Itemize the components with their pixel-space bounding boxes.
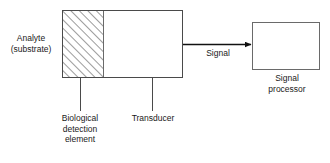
biosensor-diagram: Analyte (substrate) Signal Signal proces… (0, 0, 330, 163)
transducer-block (104, 11, 183, 78)
label-signal: Signal (190, 48, 246, 59)
biological-detection-element-block (63, 11, 104, 78)
label-analyte: Analyte (substrate) (0, 33, 62, 54)
signal-processor-block (253, 23, 320, 70)
label-signal-processor: Signal processor (252, 73, 322, 94)
label-biological-detection-element: Biological detection element (45, 113, 115, 145)
label-transducer: Transducer (119, 113, 187, 124)
